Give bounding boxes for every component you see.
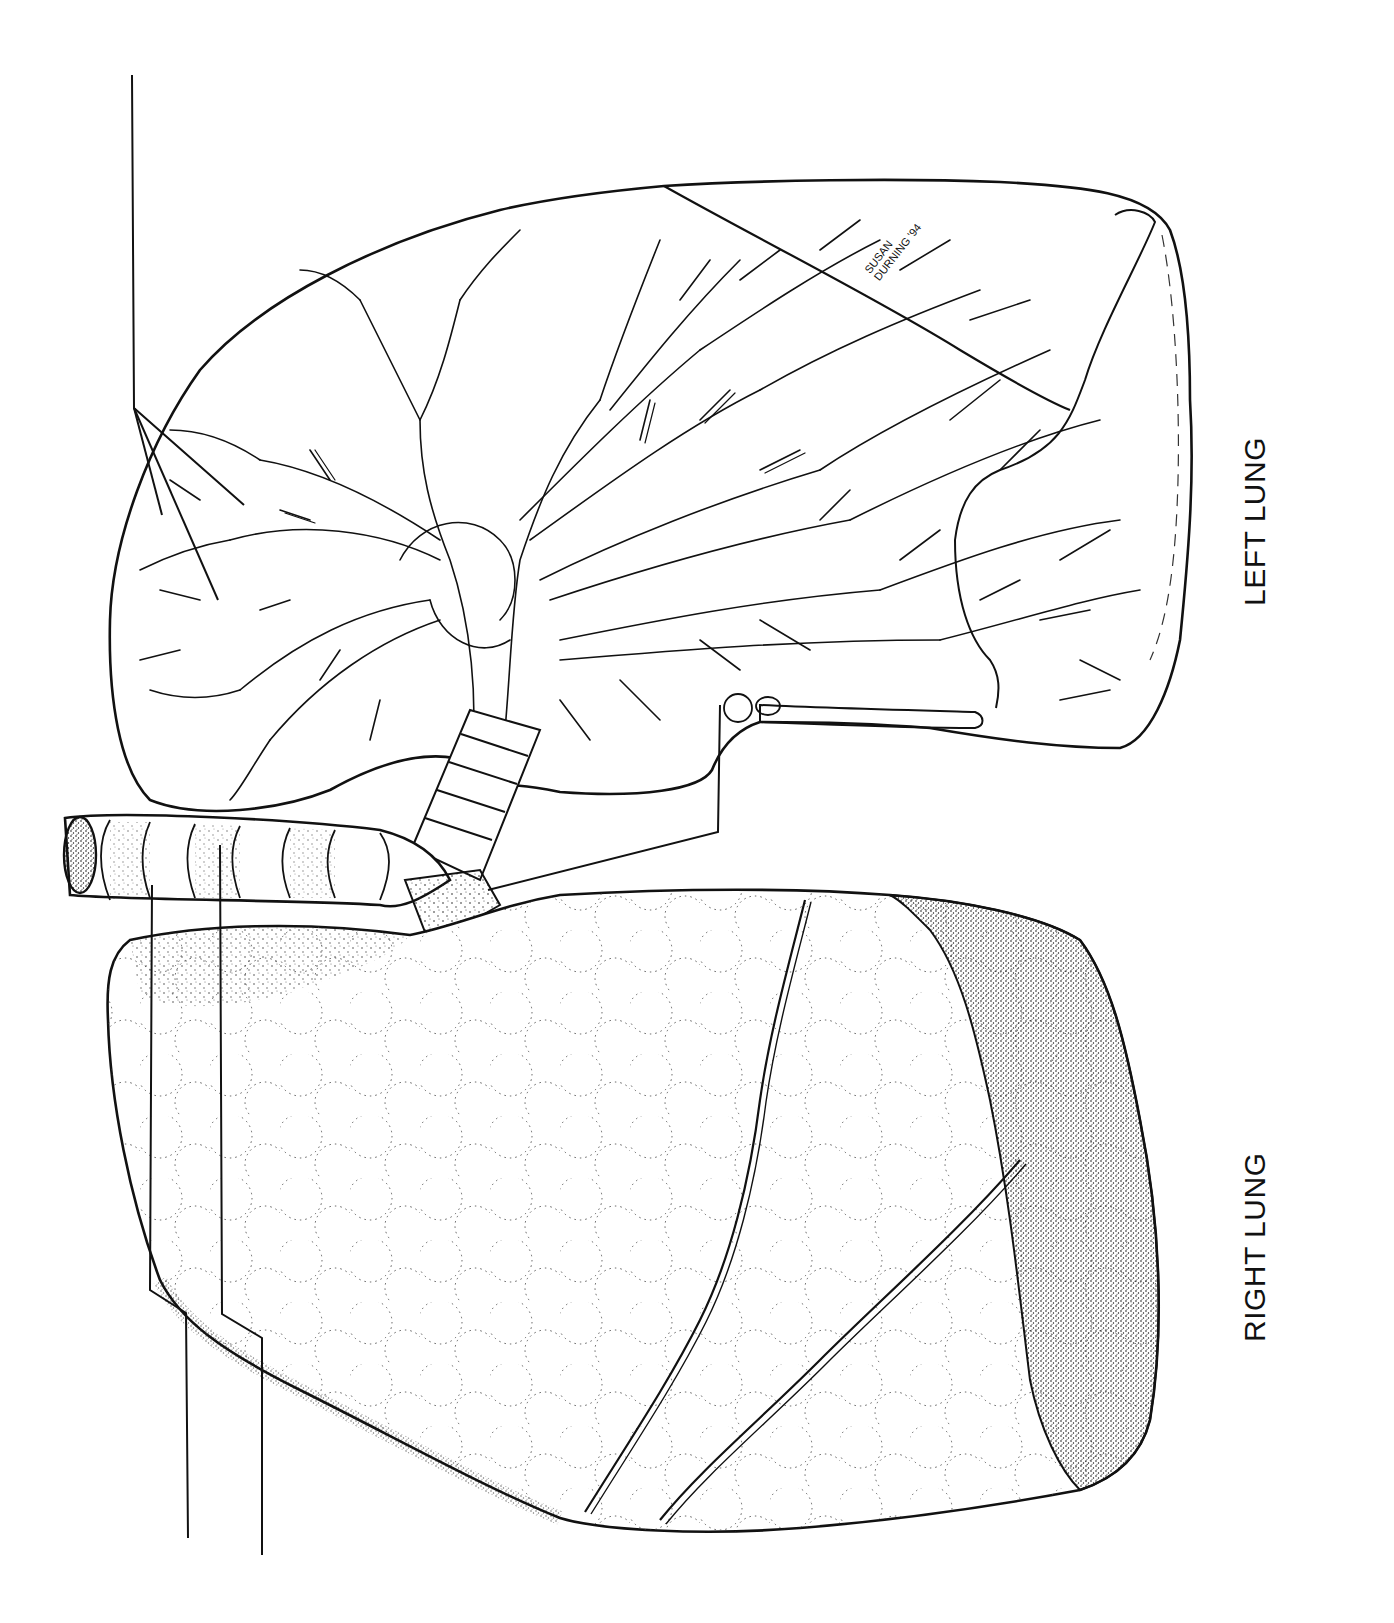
lung-illustration [0, 0, 1394, 1623]
left-lung-label: LEFT LUNG [1238, 437, 1272, 606]
left-lung [110, 180, 1192, 811]
right-lung-label: RIGHT LUNG [1238, 1153, 1272, 1342]
right-lung [108, 890, 1159, 1532]
lung-diagram: LEFT LUNG RIGHT LUNG SUSAN DURNING '94 [0, 0, 1394, 1623]
